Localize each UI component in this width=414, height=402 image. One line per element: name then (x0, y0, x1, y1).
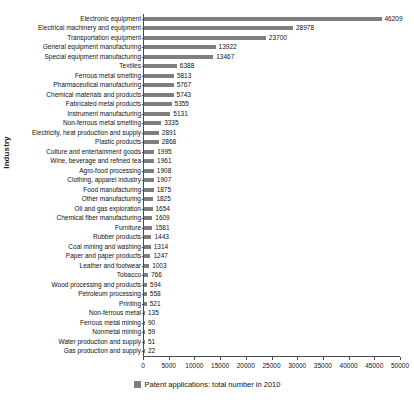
bar-value-label: 5813 (177, 72, 191, 80)
bar-row: Pharmaceutical manufacturing5767 (144, 81, 401, 91)
x-axis-tick-label: 40000 (340, 362, 358, 370)
bar (144, 169, 154, 173)
category-label: Gas production and supply (64, 348, 141, 356)
bar (144, 321, 145, 325)
x-axis-tick (323, 357, 324, 360)
bar-value-label: 28978 (296, 25, 314, 33)
x-axis-tick-label: 30000 (288, 362, 306, 370)
bar-row: Electrical machinery and equipment28978 (144, 24, 401, 34)
x-axis-tick (169, 357, 170, 360)
bar-value-label: 1581 (155, 224, 169, 232)
category-label: Wood processing and products (52, 281, 142, 289)
bar (144, 83, 174, 87)
category-label: Non-ferrous metal smelting (63, 120, 141, 128)
bar-value-label: 1609 (155, 215, 169, 223)
bar-row: Plastic products2868 (144, 138, 401, 148)
bar-value-label: 1654 (156, 205, 170, 213)
category-label: Petroleum processing (78, 291, 141, 299)
bar (144, 207, 153, 211)
bar-row: Clothing, apparel industry1907 (144, 176, 401, 186)
bar (144, 292, 147, 296)
bar-row: Printing521 (144, 299, 401, 309)
bar-row: Fabricated metal products5355 (144, 100, 401, 110)
bar-row: Non-ferrous metal smelting3335 (144, 119, 401, 129)
category-label: Electrical machinery and equipment (38, 25, 141, 33)
x-axis-tick (272, 357, 273, 360)
bar-row: Special equipment manufacturing13467 (144, 52, 401, 62)
bar-value-label: 558 (150, 291, 161, 299)
bar-value-label: 1247 (153, 253, 167, 261)
bar (144, 131, 159, 135)
category-label: Nonmetal mining (92, 329, 141, 337)
category-label: Clothing, apparel industry (67, 177, 141, 185)
bar (144, 159, 154, 163)
bar-value-label: 23700 (269, 34, 287, 42)
bar-row: Rubber products1443 (144, 233, 401, 243)
bar-row: Culture and entertainment goods1995 (144, 147, 401, 157)
bar (144, 235, 151, 239)
bar (144, 93, 174, 97)
bar-row: Chemical fiber manufacturing1609 (144, 214, 401, 224)
bar-row: Non-ferrous metal135 (144, 309, 401, 319)
bar (144, 102, 172, 106)
y-axis-title: Industry (2, 113, 11, 193)
x-axis-tick-label: 25000 (262, 362, 280, 370)
bar-row: Agro-food processing1908 (144, 166, 401, 176)
bar-value-label: 766 (151, 272, 162, 280)
bar-value-label: 22 (148, 348, 155, 356)
bar (144, 273, 148, 277)
bar (144, 150, 154, 154)
x-axis-tick-label: 0 (141, 362, 145, 370)
bar-value-label: 594 (150, 281, 161, 289)
bar (144, 311, 145, 315)
bar-row: Leather and footwear1003 (144, 261, 401, 271)
bar-value-label: 51 (148, 338, 155, 346)
bar-row: Coal mining and washing1314 (144, 242, 401, 252)
bar-row: Water production and supply51 (144, 337, 401, 347)
bar-value-label: 3335 (164, 120, 178, 128)
category-label: Leather and footwear (80, 262, 141, 270)
category-label: Electronic equipment (80, 15, 141, 23)
legend-label: Patent applications: total number in 201… (145, 380, 281, 389)
bar (144, 36, 266, 40)
x-axis-tick (374, 357, 375, 360)
bar (144, 340, 145, 344)
category-label: Chemical fiber manufacturing (56, 215, 141, 223)
bar-value-label: 46209 (385, 15, 403, 23)
bar-row: Wine, beverage and refined tea1961 (144, 157, 401, 167)
chart-legend: Patent applications: total number in 201… (0, 380, 414, 389)
category-label: Water production and supply (58, 338, 141, 346)
category-label: Plastic products (95, 139, 141, 147)
category-label: Rubber products (93, 234, 141, 242)
x-axis-tick (297, 357, 298, 360)
bar-row: Gas production and supply22 (144, 347, 401, 357)
category-label: Ferrous metal smelting (75, 72, 141, 80)
category-label: Ferrous metal mining (80, 319, 141, 327)
bar-value-label: 1908 (157, 167, 171, 175)
bar (144, 140, 159, 144)
bar-value-label: 1907 (157, 177, 171, 185)
category-label: Oil and gas exploration (75, 205, 142, 213)
bar-row: Tobacco766 (144, 271, 401, 281)
x-axis-tick (143, 357, 144, 360)
bar (144, 254, 150, 258)
x-axis-tick-label: 10000 (185, 362, 203, 370)
category-label: Paper and paper products (66, 253, 141, 261)
bar (144, 64, 177, 68)
bar-value-label: 1875 (157, 186, 171, 194)
x-axis-tick-label: 35000 (314, 362, 332, 370)
x-axis-tick (400, 357, 401, 360)
category-label: Wine, beverage and refined tea (50, 158, 141, 166)
bar-value-label: 5767 (177, 82, 191, 90)
bar-row: Other manufacturing1825 (144, 195, 401, 205)
bar-row: Transportation equipment23700 (144, 33, 401, 43)
bar (144, 17, 382, 21)
bar-row: Food manufacturing1875 (144, 185, 401, 195)
category-label: Pharmaceutical manufacturing (53, 82, 141, 90)
bar-value-label: 90 (148, 319, 155, 327)
x-axis-tick-label: 20000 (237, 362, 255, 370)
x-axis-tick-label: 50000 (391, 362, 409, 370)
x-axis-tick (349, 357, 350, 360)
category-label: Culture and entertainment goods (46, 148, 141, 156)
bar-row: Oil and gas exploration1654 (144, 204, 401, 214)
